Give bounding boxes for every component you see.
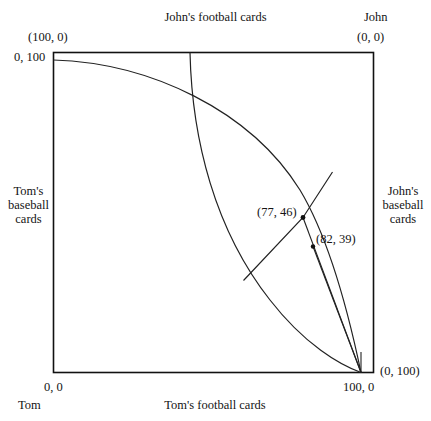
bottom-axis-title: Tom's football cards — [120, 398, 310, 412]
tom-origin-name-label: Tom — [18, 398, 41, 412]
bottom-right-johns-coords-label: (0, 100) — [380, 364, 420, 378]
allocation-a-label: (77, 46) — [257, 205, 297, 219]
bottom-right-toms-coords-label: 100, 0 — [343, 380, 374, 394]
contract-curve-segment — [244, 172, 333, 281]
allocation-a-marker — [301, 215, 306, 220]
allocation-b-marker — [311, 244, 315, 248]
allocation-b-label: (82, 39) — [316, 232, 356, 246]
diagram-canvas — [0, 0, 431, 421]
edgeworth-box-outline — [54, 53, 374, 373]
edgeworth-box-figure: John's football cards John (0, 0) (100, … — [0, 0, 431, 421]
bottom-left-toms-coords-label: 0, 0 — [44, 380, 63, 394]
price-line-b — [313, 247, 361, 373]
toms-indifference-curve — [54, 60, 362, 373]
